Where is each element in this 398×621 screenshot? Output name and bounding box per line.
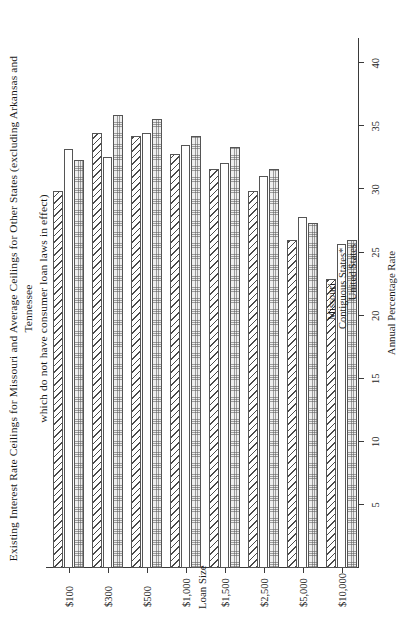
category-label: $100 (63, 586, 74, 607)
value-axis-tick-label: 35 (370, 121, 381, 132)
category-label: $1,000 (180, 578, 191, 607)
value-axis-tick (358, 252, 364, 253)
bar-chart: Existing Interest Rate Ceilings for Miss… (0, 0, 398, 621)
bar-contiguous-states (298, 217, 308, 568)
category-axis-tick (264, 568, 265, 573)
rotated-chart-canvas: Existing Interest Rate Ceilings for Miss… (0, 0, 398, 621)
bar-united-states (113, 115, 123, 568)
bar-contiguous-states (181, 145, 191, 568)
chart-title-line-1: Existing Interest Rate Ceilings for Miss… (6, 36, 36, 581)
value-axis-tick (358, 188, 364, 189)
value-axis-tick (358, 378, 364, 379)
value-axis-tick (358, 441, 364, 442)
category-axis-tick (108, 568, 109, 573)
category-label: $500 (141, 586, 152, 607)
bar-group (287, 38, 318, 568)
plot-area: 510152025303540 (46, 38, 358, 568)
bar-missouri (170, 154, 180, 568)
chart-page: Existing Interest Rate Ceilings for Miss… (0, 0, 398, 621)
value-axis-tick (358, 125, 364, 126)
category-axis-tick (225, 568, 226, 573)
bar-group (170, 38, 201, 568)
bar-group (131, 38, 162, 568)
legend-item-contiguous-states: Contiguous States* (336, 248, 347, 329)
value-axis-title: Annual Percentage Rate (385, 38, 397, 568)
category-label: $1,500 (219, 578, 230, 607)
category-axis-title: Loan Size (196, 566, 208, 609)
bar-missouri (326, 279, 336, 568)
category-axis-tick (69, 568, 70, 573)
category-axis-tick (186, 568, 187, 573)
value-axis-tick (358, 62, 364, 63)
value-axis-tick (358, 315, 364, 316)
category-axis-tick (303, 568, 304, 573)
bar-missouri (131, 136, 141, 568)
bar-united-states (191, 136, 201, 568)
category-axis-tick (147, 568, 148, 573)
category-label: $5,000 (297, 578, 308, 607)
bar-missouri (53, 191, 63, 568)
value-axis-tick-label: 30 (370, 184, 381, 195)
category-label: $300 (102, 586, 113, 607)
bar-missouri (248, 191, 258, 568)
category-label: $10,000 (336, 573, 347, 607)
bar-united-states (152, 119, 162, 568)
category-label: $2,500 (258, 578, 269, 607)
value-axis-tick-label: 40 (370, 58, 381, 69)
bar-united-states (269, 169, 279, 568)
bar-missouri (92, 133, 102, 568)
value-axis-tick-label: 25 (370, 247, 381, 258)
bar-contiguous-states (64, 149, 74, 568)
bar-missouri (287, 240, 297, 568)
legend-item-united-states: United States (347, 244, 358, 300)
value-axis-line (358, 38, 359, 568)
value-axis-tick (358, 504, 364, 505)
value-axis-tick-label: 20 (370, 310, 381, 321)
bar-united-states (230, 147, 240, 568)
legend-item-missouri: Missouri (325, 283, 336, 320)
bar-united-states (308, 224, 318, 569)
value-axis-tick-label: 15 (370, 373, 381, 384)
bar-contiguous-states (259, 176, 269, 568)
bar-contiguous-states (103, 157, 113, 568)
bar-contiguous-states (142, 133, 152, 568)
value-axis-tick-label: 10 (370, 437, 381, 448)
value-axis-tick-label: 5 (370, 502, 381, 507)
bar-united-states (74, 160, 84, 568)
chart-title: Existing Interest Rate Ceilings for Miss… (6, 36, 51, 581)
bar-group (209, 38, 240, 568)
bar-group (248, 38, 279, 568)
bar-group (53, 38, 84, 568)
bar-group (92, 38, 123, 568)
bar-contiguous-states (220, 163, 230, 568)
bar-missouri (209, 169, 219, 568)
